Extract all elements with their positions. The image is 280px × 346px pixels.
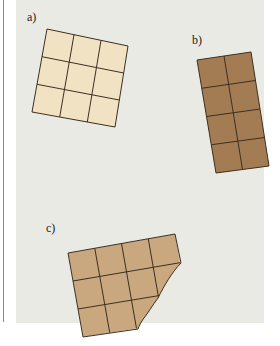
shapes-diagram <box>0 0 280 346</box>
shape-a-grid <box>32 29 128 127</box>
shape-c-grid <box>68 234 190 337</box>
shape-b-grid <box>197 52 269 173</box>
